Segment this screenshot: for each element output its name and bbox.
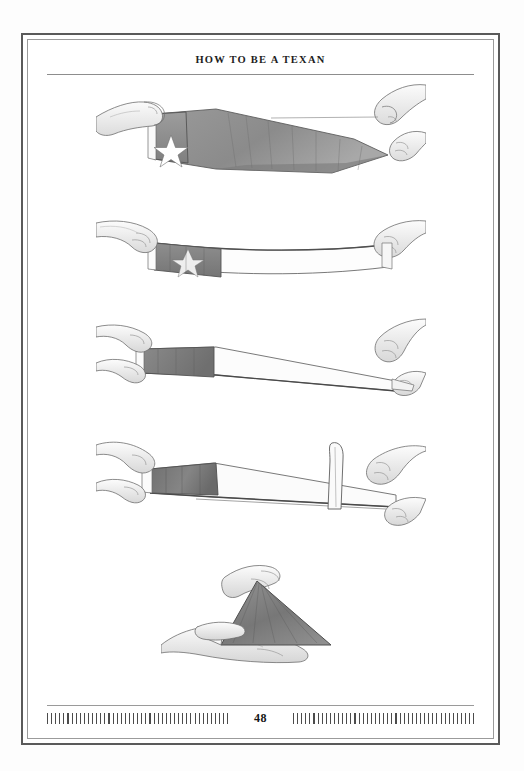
illustration-stack (33, 77, 488, 671)
flag-folded-twice-illustration (96, 315, 426, 415)
illustration-panel-5 (33, 553, 488, 665)
page-content: HOW TO BE A TEXAN (33, 43, 488, 735)
flag-hoist-field (142, 347, 214, 377)
page-scan-background: HOW TO BE A TEXAN (0, 0, 524, 771)
page-number: 48 (228, 712, 293, 724)
triangle-fold-start-illustration (96, 425, 426, 543)
right-lower-hand (389, 131, 426, 160)
right-upper-hand (375, 319, 426, 362)
folio-row: 48 (33, 711, 488, 725)
flag-hoist-field (150, 463, 218, 495)
illustration-panel-4 (33, 425, 488, 543)
flag-fly-edge (382, 243, 392, 269)
page-border-outer: HOW TO BE A TEXAN (21, 33, 500, 745)
right-upper-hand (374, 85, 425, 125)
illustration-panel-1 (33, 77, 488, 199)
illustration-panel-2 (33, 205, 488, 305)
flag-held-open-illustration (96, 77, 426, 199)
tick-rule-right (293, 713, 474, 724)
tick-rule-left (47, 713, 228, 724)
thumb (195, 622, 245, 640)
flag-edge-line (271, 117, 378, 118)
illustration-panel-3 (33, 315, 488, 415)
running-head: HOW TO BE A TEXAN (33, 43, 488, 67)
right-upper-hand (366, 446, 426, 485)
left-upper-hand (96, 442, 155, 473)
page-title: HOW TO BE A TEXAN (195, 54, 325, 65)
left-lower-hand (96, 479, 145, 502)
page-footer: 48 (33, 705, 488, 725)
finished-triangle-illustration (161, 553, 361, 665)
header-divider (47, 74, 474, 75)
left-upper-hand (96, 325, 152, 352)
left-hand (96, 221, 157, 253)
flag-folded-once-illustration (96, 205, 426, 305)
footer-divider (47, 705, 474, 706)
